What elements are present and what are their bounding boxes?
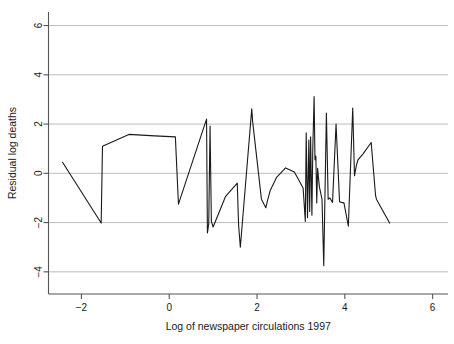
x-tick-label-2: 2 — [254, 302, 260, 313]
y-tick-label-0: 0 — [33, 170, 44, 176]
x-axis-ticks — [81, 294, 432, 299]
x-tick-label-6: 6 — [430, 302, 436, 313]
x-tick-label-4: 4 — [342, 302, 348, 313]
x-tick-label-0: 0 — [166, 302, 172, 313]
y-tick-label--2: −2 — [33, 216, 44, 228]
y-axis-ticks — [44, 26, 49, 272]
y-tick-label--4: −4 — [33, 266, 44, 278]
y-tick-label-6: 6 — [33, 22, 44, 28]
y-tick-labels: −4−20246 — [33, 22, 44, 277]
x-tick-labels: −20246 — [76, 302, 436, 313]
residual-line-plot: −4−20246 −20246 Log of newspaper circula… — [0, 0, 454, 344]
data-series-line — [63, 96, 390, 265]
y-tick-label-2: 2 — [33, 121, 44, 127]
x-axis-title: Log of newspaper circulations 1997 — [166, 320, 331, 332]
y-tick-label-4: 4 — [33, 72, 44, 78]
x-tick-label--2: −2 — [76, 302, 88, 313]
series-line-residual-log-deaths — [63, 96, 390, 265]
chart-container: −4−20246 −20246 Log of newspaper circula… — [0, 0, 454, 344]
y-axis-title: Residual log deaths — [6, 107, 18, 199]
